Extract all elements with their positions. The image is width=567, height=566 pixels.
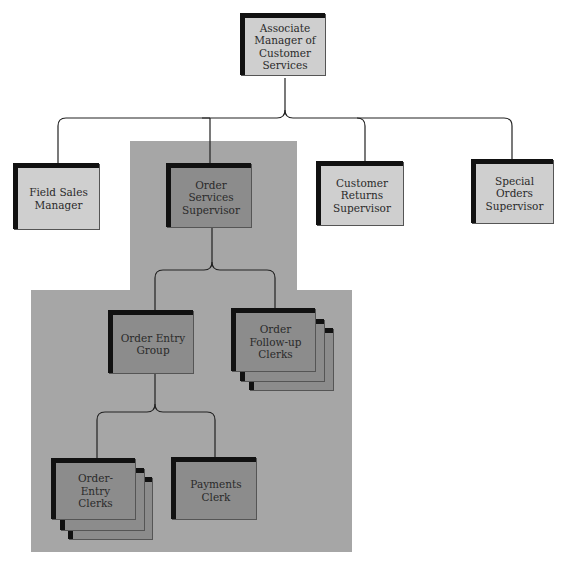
label-line: Order Services xyxy=(188,179,233,204)
node-order-entry-group-box: Order Entry Group xyxy=(108,310,193,373)
node-associate-manager-box: Associate Manager of Customer Services xyxy=(240,13,325,75)
node-order-entry-clerks-box: Order- Entry Clerks xyxy=(51,458,135,519)
node-payments-clerk-box: Payments Clerk xyxy=(171,457,256,519)
node-order-followup-clerks-label: Order Follow-up Clerks xyxy=(247,323,303,361)
node-field-sales-manager-label: Field Sales Manager xyxy=(27,186,90,211)
label-line: Order- xyxy=(78,472,113,484)
node-field-sales-manager-box: Field Sales Manager xyxy=(13,163,99,229)
node-order-services-supervisor-label: Order Services Supervisor xyxy=(171,179,251,217)
node-order-services-supervisor-box: Order Services Supervisor xyxy=(166,163,251,227)
label-line: Supervisor xyxy=(333,202,391,214)
label-line: Manager of xyxy=(254,34,316,46)
label-line: Field Sales xyxy=(29,186,88,198)
label-line: Customer xyxy=(259,47,311,59)
connector-root-right xyxy=(285,110,512,164)
label-line: Clerk xyxy=(201,491,230,503)
label-line: Group xyxy=(136,344,169,356)
node-order-entry-clerks-label: Order- Entry Clerks xyxy=(76,472,115,510)
label-line: Customer xyxy=(336,177,388,189)
label-line: Payments xyxy=(190,478,241,490)
label-line: Returns xyxy=(341,189,383,201)
label-line: Services xyxy=(262,59,307,71)
node-customer-returns-supervisor-label: Customer Returns Supervisor xyxy=(331,177,393,215)
label-line: Supervisor xyxy=(182,204,240,216)
node-order-followup-clerks-box: Order Follow-up Clerks xyxy=(231,308,315,371)
label-line: Clerks xyxy=(258,348,292,360)
node-special-orders-supervisor-box: Special Orders Supervisor xyxy=(471,159,553,223)
node-associate-manager-label: Associate Manager of Customer Services xyxy=(252,22,318,72)
label-line: Associate xyxy=(260,22,311,34)
label-line: Special xyxy=(495,175,534,187)
label-line: Clerks xyxy=(78,497,112,509)
label-line: Manager xyxy=(34,199,82,211)
node-customer-returns-supervisor-box: Customer Returns Supervisor xyxy=(316,161,403,225)
label-line: Orders xyxy=(496,187,533,199)
label-line: Entry xyxy=(81,485,111,497)
label-line: Order xyxy=(260,323,292,335)
label-line: Follow-up xyxy=(249,336,301,348)
connector-customer-returns xyxy=(357,118,365,166)
node-order-entry-group-label: Order Entry Group xyxy=(119,332,188,357)
node-special-orders-supervisor-label: Special Orders Supervisor xyxy=(484,175,546,213)
node-payments-clerk-label: Payments Clerk xyxy=(188,478,243,503)
label-line: Order Entry xyxy=(121,332,186,344)
label-line: Supervisor xyxy=(486,200,544,212)
